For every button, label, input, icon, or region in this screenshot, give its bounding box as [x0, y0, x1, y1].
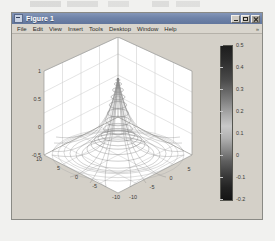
figure-canvas[interactable]: 1 0.5 0 -0.5 10 5 0 -5 -10 -10 -5 0 5 — [12, 34, 262, 219]
y-tick-10: 10 — [36, 156, 42, 162]
colorbar[interactable]: 0.5 0.4 0.3 0.2 0.1 0 -0.1 -0.2 — [220, 45, 260, 205]
colorbar-notch — [220, 177, 223, 178]
y-tick-m5: -5 — [92, 183, 97, 189]
z-tick-1: 1 — [38, 68, 41, 74]
colorbar-tick-0: 0 — [236, 153, 239, 158]
colorbar-tick-m0p1: -0.1 — [236, 175, 245, 180]
colorbar-notch — [220, 89, 223, 90]
z-tick-0p5: 0.5 — [34, 96, 42, 102]
x-tick-m5: -5 — [150, 184, 155, 190]
colorbar-tick-0p5: 0.5 — [236, 43, 244, 48]
menu-bar: File Edit View Insert Tools Desktop Wind… — [12, 24, 262, 34]
y-tick-5: 5 — [57, 165, 60, 171]
menu-help[interactable]: Help — [161, 25, 179, 33]
colorbar-notch — [220, 199, 223, 200]
colorbar-notch — [220, 111, 223, 112]
window-title: Figure 1 — [26, 14, 54, 23]
maximize-button[interactable] — [241, 15, 250, 23]
title-bar[interactable]: Figure 1 — [12, 13, 262, 24]
scan-artifact-text — [30, 1, 200, 7]
colorbar-tick-0p3: 0.3 — [236, 87, 244, 92]
colorbar-tick-0p1: 0.1 — [236, 131, 244, 136]
colorbar-notch — [220, 45, 223, 46]
menu-view[interactable]: View — [46, 25, 65, 33]
menu-overflow-icon[interactable]: » — [256, 26, 259, 32]
colorbar-notch — [220, 133, 223, 134]
matlab-figure-icon — [14, 14, 23, 23]
figure-window: Figure 1 File Edit View Insert Tools Des… — [11, 12, 263, 220]
menu-desktop[interactable]: Desktop — [106, 25, 134, 33]
colorbar-tick-0p4: 0.4 — [236, 65, 244, 70]
z-tick-0: 0 — [38, 124, 41, 130]
menu-file[interactable]: File — [14, 25, 30, 33]
menu-insert[interactable]: Insert — [65, 25, 86, 33]
menu-window[interactable]: Window — [134, 25, 161, 33]
y-tick-m10: -10 — [112, 194, 120, 200]
colorbar-tick-0p2: 0.2 — [236, 109, 244, 114]
minimize-button[interactable] — [231, 15, 240, 23]
x-tick-0: 0 — [170, 175, 173, 181]
colorbar-tick-m0p2: -0.2 — [236, 197, 245, 202]
close-button[interactable] — [251, 15, 260, 23]
menu-tools[interactable]: Tools — [86, 25, 106, 33]
menu-edit[interactable]: Edit — [30, 25, 46, 33]
axes-3d[interactable]: 1 0.5 0 -0.5 10 5 0 -5 -10 -10 -5 0 5 — [26, 37, 202, 209]
window-controls — [231, 15, 261, 23]
colorbar-notch — [220, 67, 223, 68]
x-tick-m10: -10 — [129, 194, 137, 200]
colorbar-notch — [220, 155, 223, 156]
x-tick-5: 5 — [188, 166, 191, 172]
y-tick-0: 0 — [75, 174, 78, 180]
